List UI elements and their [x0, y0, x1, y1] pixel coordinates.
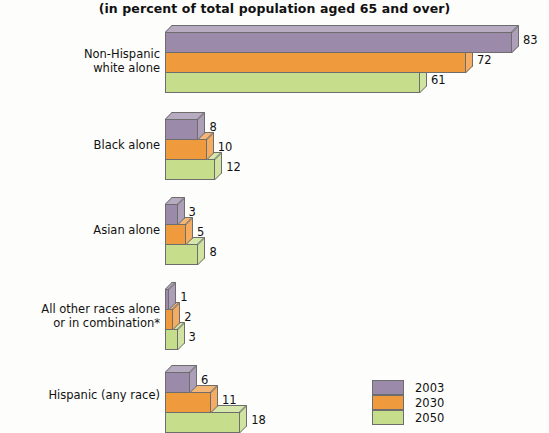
legend-swatch-2003 — [372, 380, 404, 395]
bar-front-face — [165, 372, 190, 393]
category-label: Asian alone — [0, 224, 160, 238]
bar-value-label: 8 — [209, 245, 216, 259]
bar-front-face — [165, 52, 466, 73]
bar-front-face — [165, 244, 198, 265]
bar-value-label: 18 — [251, 413, 266, 427]
bar-2003: 3 — [165, 197, 178, 218]
bar-front-face — [165, 159, 215, 180]
bar-side-face — [198, 237, 205, 265]
category-label: Non-Hispanic white alone — [0, 48, 160, 75]
bar-front-face — [165, 32, 512, 53]
chart-title: (in percent of total population aged 65 … — [0, 1, 549, 16]
category-label: Black alone — [0, 139, 160, 153]
bar-value-label: 11 — [222, 393, 237, 407]
bar-value-label: 6 — [201, 373, 208, 387]
bar-side-face — [512, 25, 519, 53]
bar-front-face — [165, 392, 211, 413]
bar-value-label: 12 — [226, 160, 241, 174]
bar-value-label: 3 — [189, 330, 196, 344]
bar-front-face — [165, 412, 240, 433]
category-label: All other races alone or in combination* — [0, 303, 160, 330]
bar-value-label: 72 — [477, 53, 492, 67]
bar-side-face — [240, 405, 247, 433]
bar-front-face — [165, 329, 178, 350]
legend-swatch-2030 — [372, 395, 404, 410]
bar-value-label: 3 — [189, 205, 196, 219]
bar-value-label: 10 — [218, 140, 233, 154]
legend-label-2003: 2003 — [415, 381, 444, 395]
bar-value-label: 83 — [523, 33, 538, 47]
bar-value-label: 8 — [209, 120, 216, 134]
bar-value-label: 5 — [197, 225, 204, 239]
bar-value-label: 1 — [180, 290, 187, 304]
bar-value-label: 2 — [184, 310, 191, 324]
bar-2003: 1 — [165, 282, 169, 303]
bar-2003: 6 — [165, 365, 190, 386]
bar-front-face — [165, 224, 186, 245]
bar-2003: 83 — [165, 25, 512, 46]
bar-side-face — [215, 152, 222, 180]
legend-swatch-2050 — [372, 410, 404, 425]
category-label: Hispanic (any race) — [0, 389, 160, 403]
legend-label-2050: 2050 — [415, 411, 444, 425]
bar-front-face — [165, 72, 420, 93]
bar-top-face — [165, 25, 519, 32]
bar-front-face — [165, 289, 169, 310]
legend-label-2030: 2030 — [415, 396, 444, 410]
bar-front-face — [165, 119, 198, 140]
bar-front-face — [165, 309, 173, 330]
bar-front-face — [165, 139, 207, 160]
bar-front-face — [165, 204, 178, 225]
bar-value-label: 61 — [431, 73, 446, 87]
bar-2003: 8 — [165, 112, 198, 133]
